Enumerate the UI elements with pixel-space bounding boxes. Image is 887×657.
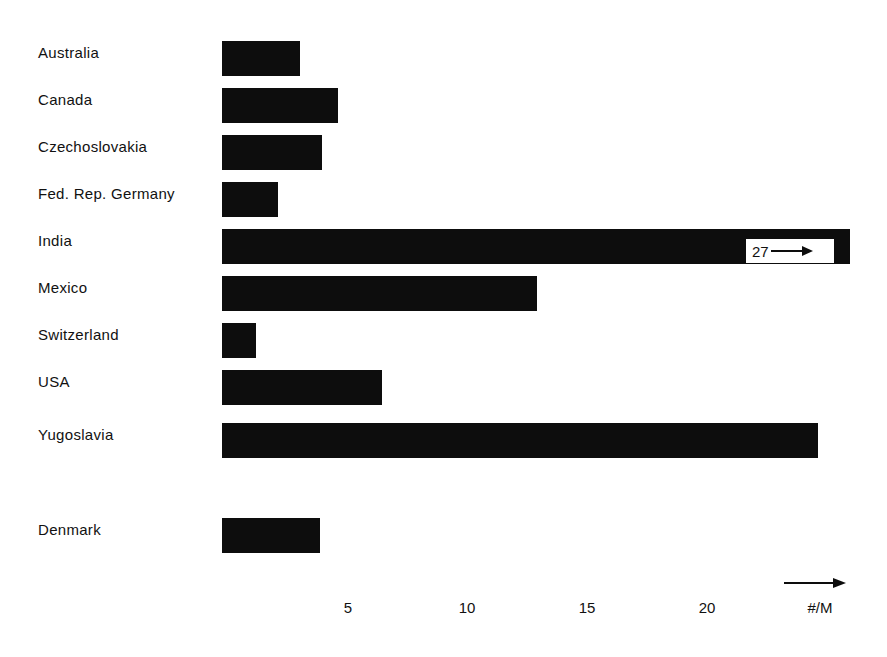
x-tick-15: 15 (579, 600, 596, 615)
bar-mexico (222, 276, 537, 311)
bar-usa (222, 370, 382, 405)
category-label-canada: Canada (38, 92, 92, 107)
category-label-usa: USA (38, 374, 70, 389)
axis-unit-label: #/M (807, 600, 832, 615)
bar-chart: Australia Canada Czechoslovakia Fed. Rep… (0, 0, 887, 657)
bar-czechoslovakia (222, 135, 322, 170)
category-label-fed-rep-germany: Fed. Rep. Germany (38, 186, 175, 201)
category-label-mexico: Mexico (38, 280, 87, 295)
bar-yugoslavia (222, 423, 818, 458)
axis-arrow-right-icon (784, 578, 846, 589)
arrow-right-icon (771, 246, 813, 256)
bar-fed-rep-germany (222, 182, 278, 217)
category-label-denmark: Denmark (38, 522, 101, 537)
category-label-yugoslavia: Yugoslavia (38, 427, 114, 442)
bar-switzerland (222, 323, 256, 358)
category-label-india: India (38, 233, 72, 248)
bar-australia (222, 41, 300, 76)
india-value-annotation: 27 (745, 238, 835, 264)
bar-denmark (222, 518, 320, 553)
category-label-switzerland: Switzerland (38, 327, 119, 342)
category-label-czechoslovakia: Czechoslovakia (38, 139, 147, 154)
x-tick-5: 5 (344, 600, 352, 615)
category-label-australia: Australia (38, 45, 99, 60)
india-value-label: 27 (752, 244, 769, 259)
x-tick-10: 10 (459, 600, 476, 615)
x-tick-20: 20 (699, 600, 716, 615)
bar-canada (222, 88, 338, 123)
